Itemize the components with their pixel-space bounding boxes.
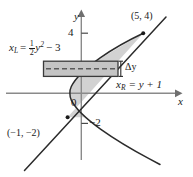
fraction-denominator: 2 [29,48,35,57]
y-axis-label: y [74,11,79,22]
point-label-top: (5, 4) [131,11,153,21]
right-curve-subscript: R [121,83,126,92]
left-curve-fraction: 12 [29,40,35,58]
intersection-point-top [141,31,145,35]
y-tick-label-4: 4 [68,27,74,38]
left-curve-exponent: 2 [40,40,44,49]
left-curve-tail: − 3 [46,41,60,53]
left-curve-subscript: L [14,46,18,55]
graph-svg [0,0,193,177]
origin-label: 0 [71,97,77,108]
right-curve-rest: = y + 1 [128,78,161,90]
right-curve-equation: xR= y + 1 [116,79,162,92]
x-axis-label: x [178,96,183,107]
left-curve-equals: = [20,41,26,53]
y-tick-label-minus-2: −2 [89,117,101,128]
left-curve-equation: xL=12y2− 3 [9,40,60,58]
point-label-bottom: (−1, −2) [7,128,40,138]
intersection-point-bottom [66,115,70,119]
delta-y-label: Δy [125,62,136,72]
fraction-numerator: 1 [29,40,35,48]
figure-canvas: y x 0 4 −2 (5, 4) (−1, −2) Δy xL=12y2− 3… [0,0,193,177]
